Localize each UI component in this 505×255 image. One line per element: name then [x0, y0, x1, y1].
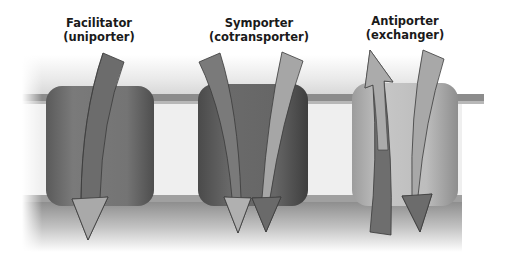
symporter-label-title: Symporter	[209, 16, 309, 30]
symporter-label: Symporter (cotransporter)	[209, 16, 309, 44]
facilitator-label: Facilitator (uniporter)	[63, 16, 135, 44]
facilitator-label-subtitle: (uniporter)	[63, 30, 135, 44]
symporter-label-subtitle: (cotransporter)	[209, 30, 309, 44]
antiporter-label: Antiporter (exchanger)	[366, 14, 444, 42]
antiporter-protein	[352, 83, 458, 206]
antiporter-label-subtitle: (exchanger)	[366, 28, 444, 42]
antiporter-label-title: Antiporter	[366, 14, 444, 28]
facilitator-label-title: Facilitator	[63, 16, 135, 30]
